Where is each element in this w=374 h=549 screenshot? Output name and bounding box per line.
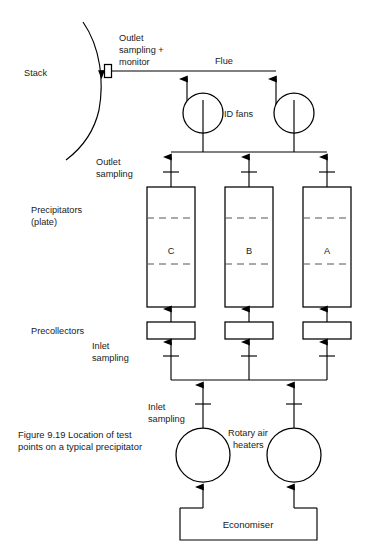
inlet-sampling-lower-label-line2: sampling xyxy=(148,414,185,424)
caption-line-2: points on a typical precipitator xyxy=(18,441,142,452)
outlet-monitor-label-line3: monitor xyxy=(119,57,150,67)
precollector-c xyxy=(147,322,195,339)
precipitators-label-line2: (plate) xyxy=(31,217,57,227)
outlet-sampling-group: Outlet sampling xyxy=(96,157,335,187)
stack-group: Stack xyxy=(24,22,101,160)
precollector-a xyxy=(303,322,351,339)
id-fans-group: ID fans xyxy=(183,79,314,152)
figure-caption: Figure 9.19 Location of test points on a… xyxy=(18,429,142,452)
precollector-b xyxy=(225,322,273,339)
precipitator-test-point-diagram: Stack Outlet sampling + monitor Flue xyxy=(0,0,374,549)
precollectors-label: Precollectors xyxy=(31,326,85,336)
outlet-sampling-label-line2: sampling xyxy=(96,169,133,179)
precipitator-c-label: C xyxy=(168,246,175,256)
figure-diagram: Stack Outlet sampling + monitor Flue xyxy=(0,0,374,549)
outlet-monitor-label-line2: sampling + xyxy=(119,45,164,55)
inlet-sampling-lower-label-line1: Inlet xyxy=(148,402,166,412)
stack-arc xyxy=(66,22,101,160)
id-fans-label: ID fans xyxy=(224,109,254,119)
inlet-sampling-upper-label-line1: Inlet xyxy=(92,341,110,351)
precipitators-group: C B A Precipitators (plate) xyxy=(31,187,351,307)
rotary-air-heaters-label-line1: Rotary air xyxy=(228,428,268,438)
rotary-air-heater-left xyxy=(176,428,230,482)
economiser-label: Economiser xyxy=(223,519,274,530)
rotary-air-heater-right xyxy=(267,428,321,482)
inlet-sampling-lower-group: Inlet sampling xyxy=(148,385,302,428)
rotary-air-heaters-group: Rotary air heaters xyxy=(176,428,321,482)
precipitator-a-label: A xyxy=(324,246,331,256)
precipitator-b-label: B xyxy=(246,246,252,256)
inlet-sampling-upper-group: Inlet sampling xyxy=(92,341,335,380)
economiser-group: Economiser xyxy=(180,487,317,540)
inlet-sampling-upper-label-line2: sampling xyxy=(92,353,129,363)
precollector-to-precipitator-ducts xyxy=(171,309,327,322)
outlet-sampling-label-line1: Outlet xyxy=(96,157,121,167)
outlet-monitor-box xyxy=(105,65,112,78)
rotary-air-heaters-label-line2: heaters xyxy=(233,440,264,450)
outlet-monitor-group: Outlet sampling + monitor Flue xyxy=(102,33,277,78)
precollectors-group: Precollectors xyxy=(31,322,351,339)
precipitators-label-line1: Precipitators xyxy=(31,205,82,215)
caption-line-1: Figure 9.19 Location of test xyxy=(18,429,132,440)
stack-label: Stack xyxy=(24,68,47,78)
outlet-monitor-label-line1: Outlet xyxy=(119,33,144,43)
flue-label: Flue xyxy=(215,56,233,66)
